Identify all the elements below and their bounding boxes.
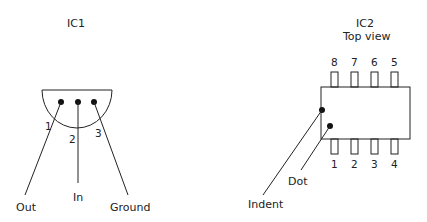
ic2-pin6 (371, 72, 378, 87)
ic1-pin2-number: 2 (69, 133, 76, 145)
ic2-subtitle: Top view (342, 30, 390, 43)
ic2-pin4-number: 4 (391, 158, 398, 170)
ic2-pin1-number: 1 (331, 158, 338, 170)
ic1-lead-ground (94, 102, 128, 195)
ic2-pin5-number: 5 (391, 56, 398, 68)
ic1-group: IC1 1 2 3 Out In Ground (16, 17, 150, 214)
ic2-pin4 (391, 139, 398, 154)
ic2-pin6-number: 6 (371, 56, 378, 68)
ic2-pin2-number: 2 (351, 158, 358, 170)
ic1-pin1-label: Out (16, 201, 37, 214)
ic2-pin7 (351, 72, 358, 87)
ic2-pin2 (351, 139, 358, 154)
ic2-body (321, 87, 410, 139)
ic2-pin5 (391, 72, 398, 87)
ic2-pin1 (331, 139, 338, 154)
ic1-title: IC1 (67, 17, 85, 30)
ic1-lead-out (25, 102, 61, 195)
ic2-pin8 (331, 72, 338, 87)
ic2-dot-leader (301, 126, 330, 170)
ic1-pin3-number: 3 (95, 127, 102, 139)
ic2-group: IC2 Top view 8 7 6 5 1 2 3 4 Indent Dot (248, 17, 410, 211)
ic1-pin2-label: In (73, 191, 83, 204)
ic2-pin8-number: 8 (331, 56, 338, 68)
ic2-dot-label: Dot (288, 175, 308, 188)
ic-pinout-diagram: IC1 1 2 3 Out In Ground IC2 Top view (0, 0, 427, 222)
ic2-pin3 (371, 139, 378, 154)
ic2-pin3-number: 3 (371, 158, 378, 170)
ic1-pin3-label: Ground (110, 201, 150, 214)
ic2-pin7-number: 7 (351, 56, 358, 68)
ic2-indent-label: Indent (248, 198, 284, 211)
ic1-pin1-number: 1 (45, 120, 52, 132)
ic2-title: IC2 (356, 17, 374, 30)
